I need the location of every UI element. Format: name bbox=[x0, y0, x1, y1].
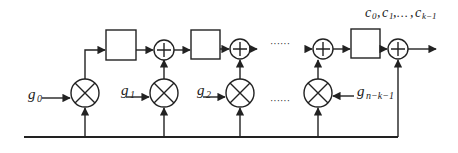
svg-text:0: 0 bbox=[37, 93, 42, 104]
register-1 bbox=[106, 30, 136, 60]
adder-1 bbox=[154, 40, 174, 60]
output-label: c 0 , c 1 , … , c k−1 bbox=[365, 5, 437, 21]
ellipsis-bottom: ······ bbox=[270, 95, 290, 106]
svg-text:…: … bbox=[397, 6, 408, 20]
svg-text:,: , bbox=[410, 5, 414, 20]
encoder-block-diagram: ······ ······ g 0 g 1 g 2 g n−k−1 c 0 , … bbox=[0, 0, 458, 153]
label-g2: g 2 bbox=[197, 82, 211, 100]
svg-text:g: g bbox=[197, 82, 205, 98]
label-g0: g 0 bbox=[28, 86, 42, 104]
svg-text:,: , bbox=[377, 5, 381, 20]
adder-2 bbox=[230, 39, 250, 59]
adder-3 bbox=[313, 39, 333, 59]
svg-text:g: g bbox=[357, 83, 365, 99]
multiplier-g1 bbox=[150, 79, 178, 107]
multiplier-g0 bbox=[71, 79, 99, 107]
register-k bbox=[351, 29, 380, 58]
multiplier-gn-k-1 bbox=[304, 79, 332, 107]
svg-text:n−k−1: n−k−1 bbox=[366, 90, 394, 101]
register-2 bbox=[191, 30, 220, 59]
svg-text:2: 2 bbox=[206, 89, 211, 100]
svg-text:c: c bbox=[365, 5, 372, 20]
multiplier-g2 bbox=[226, 79, 254, 107]
svg-text:c: c bbox=[415, 5, 422, 20]
label-gn-k-1: g n−k−1 bbox=[357, 83, 394, 101]
svg-text:k−1: k−1 bbox=[422, 11, 437, 21]
ellipsis-top: ······ bbox=[270, 38, 290, 49]
label-g1: g 1 bbox=[121, 82, 135, 100]
svg-text:g: g bbox=[28, 86, 36, 102]
svg-text:,: , bbox=[393, 5, 397, 20]
svg-text:1: 1 bbox=[130, 89, 135, 100]
svg-text:g: g bbox=[121, 82, 129, 98]
svg-text:c: c bbox=[382, 5, 389, 20]
adder-output bbox=[388, 39, 408, 59]
